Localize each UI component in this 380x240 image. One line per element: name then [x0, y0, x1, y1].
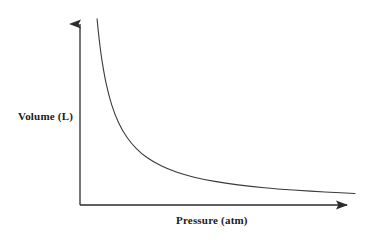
chart-figure: Volume (L) Pressure (atm): [0, 0, 380, 240]
y-axis-label: Volume (L): [18, 110, 73, 122]
inverse-proportion-curve: [97, 19, 355, 194]
x-axis-label: Pressure (atm): [176, 214, 248, 226]
